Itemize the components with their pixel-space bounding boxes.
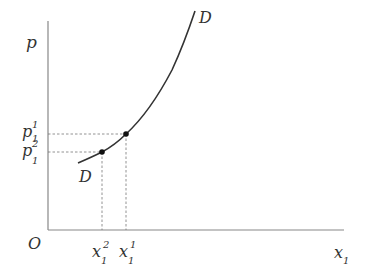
svg-text:p: p [22,122,32,141]
price-label-2: p 2 1 [22,138,38,166]
svg-text:p: p [22,141,32,160]
curve-label-top: D [198,8,212,27]
quantity-label-2: x 2 1 [92,239,109,266]
point-1-marker [123,131,129,137]
demand-curve [78,11,195,163]
svg-text:1: 1 [32,155,38,166]
origin-label: O [28,234,41,253]
svg-text:x: x [334,243,343,262]
svg-text:2: 2 [31,138,38,149]
curve-label-bottom: D [78,167,92,186]
x-axis-label: x 1 [334,243,349,266]
demand-diagram: D D p O x 1 p 1 1 p 2 1 x 2 1 x 1 1 [0,0,365,276]
y-axis-label: p [26,32,37,52]
svg-text:1: 1 [128,255,134,266]
svg-text:x: x [119,242,128,261]
svg-text:2: 2 [102,239,109,250]
svg-text:1: 1 [101,255,107,266]
svg-text:1: 1 [32,119,38,130]
quantity-label-1: x 1 1 [119,239,136,266]
point-2-marker [99,149,105,155]
svg-text:x: x [92,242,101,261]
svg-text:1: 1 [343,255,349,266]
svg-text:1: 1 [130,239,136,250]
